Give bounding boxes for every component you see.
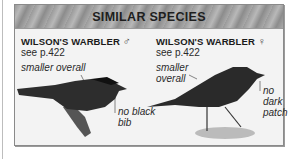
species-name-text: WILSON'S WARBLER — [156, 36, 255, 47]
species-name-male: WILSON'S WARBLER ♂ — [21, 35, 131, 47]
male-symbol-icon: ♂ — [123, 35, 131, 47]
panel-header: SIMILAR SPECIES — [15, 5, 283, 29]
panel-title: SIMILAR SPECIES — [15, 10, 283, 24]
species-name-text: WILSON'S WARBLER — [21, 36, 120, 47]
similar-species-panel: SIMILAR SPECIES WILSON'S WARBLER ♂ see p… — [14, 4, 284, 146]
bird-illustration-female — [145, 55, 275, 145]
species-name-female: WILSON'S WARBLER ♀ — [156, 35, 266, 47]
female-symbol-icon: ♀ — [258, 35, 266, 47]
bird-illustration-male — [15, 55, 140, 145]
page-margin-rule — [2, 0, 3, 159]
